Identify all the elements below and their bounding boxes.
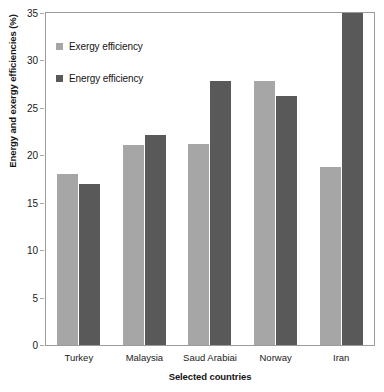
y-tick-mark: [40, 203, 44, 204]
bar-exergy: [57, 174, 78, 345]
bar-chart: Energy and exergy efficiencies (%) 05101…: [0, 0, 384, 392]
legend-label: Energy efficiency: [69, 73, 143, 84]
x-tick-label: Turkey: [64, 352, 93, 363]
bar-exergy: [320, 167, 341, 345]
x-tick-label: Iran: [333, 352, 349, 363]
y-tick-label: 20: [8, 150, 38, 161]
x-tick-label: Saud Arabiai: [183, 352, 237, 363]
legend-item: Exergy efficiency: [56, 40, 143, 52]
legend-swatch-icon: [56, 75, 63, 82]
y-tick-label: 0: [8, 340, 38, 351]
x-axis-title: Selected countries: [45, 371, 375, 382]
legend-item: Energy efficiency: [56, 72, 143, 84]
y-tick-mark: [40, 13, 44, 14]
y-tick-mark: [40, 60, 44, 61]
bar-energy: [342, 13, 363, 345]
legend-swatch-icon: [56, 43, 63, 50]
y-tick-mark: [40, 250, 44, 251]
y-tick-mark: [40, 345, 44, 346]
bar-exergy: [254, 81, 275, 345]
y-tick-mark: [40, 155, 44, 156]
bar-group: [177, 13, 243, 345]
bar-exergy: [123, 145, 144, 345]
y-axis-title: Energy and exergy efficiencies (%): [7, 0, 21, 201]
y-tick-label: 35: [8, 8, 38, 19]
x-tick-label: Malaysia: [126, 352, 164, 363]
y-tick-mark: [40, 298, 44, 299]
y-tick-label: 15: [8, 197, 38, 208]
y-tick-label: 5: [8, 292, 38, 303]
bar-energy: [79, 184, 100, 345]
bar-energy: [145, 135, 166, 345]
bar-energy: [276, 96, 297, 345]
y-tick-label: 30: [8, 55, 38, 66]
y-tick-mark: [40, 108, 44, 109]
y-tick-label: 25: [8, 102, 38, 113]
x-tick-label: Norway: [259, 352, 291, 363]
chart-legend: Exergy efficiencyEnergy efficiency: [56, 40, 143, 104]
y-tick-label: 10: [8, 245, 38, 256]
bar-exergy: [188, 144, 209, 345]
bar-group: [308, 13, 374, 345]
legend-label: Exergy efficiency: [69, 41, 143, 52]
bar-energy: [210, 81, 231, 345]
bar-group: [243, 13, 309, 345]
